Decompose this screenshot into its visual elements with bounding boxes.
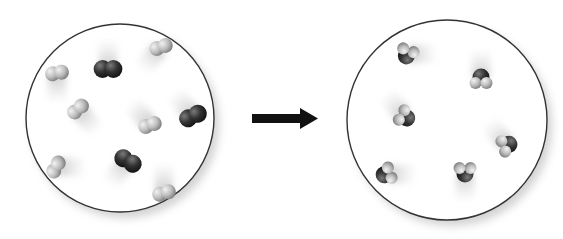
reaction-diagram <box>0 0 563 239</box>
dark-diatomic-molecule <box>94 60 123 78</box>
arrow-head-icon <box>300 108 318 129</box>
reaction-arrow <box>252 108 318 129</box>
reaction-diagram-canvas <box>0 0 563 239</box>
reactants-container <box>26 24 219 218</box>
products-circle <box>347 20 547 220</box>
arrow-shaft <box>252 114 302 123</box>
products-container <box>347 20 552 226</box>
